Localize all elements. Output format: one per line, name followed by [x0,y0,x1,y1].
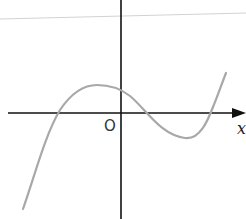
guide-line [0,13,246,19]
graph-canvas [0,0,246,219]
x-axis-arrow-icon [232,108,246,118]
cubic-curve [23,73,226,209]
x-axis-label: x [237,119,246,138]
cubic-graph-figure: O x [0,0,246,219]
origin-label: O [104,117,116,135]
